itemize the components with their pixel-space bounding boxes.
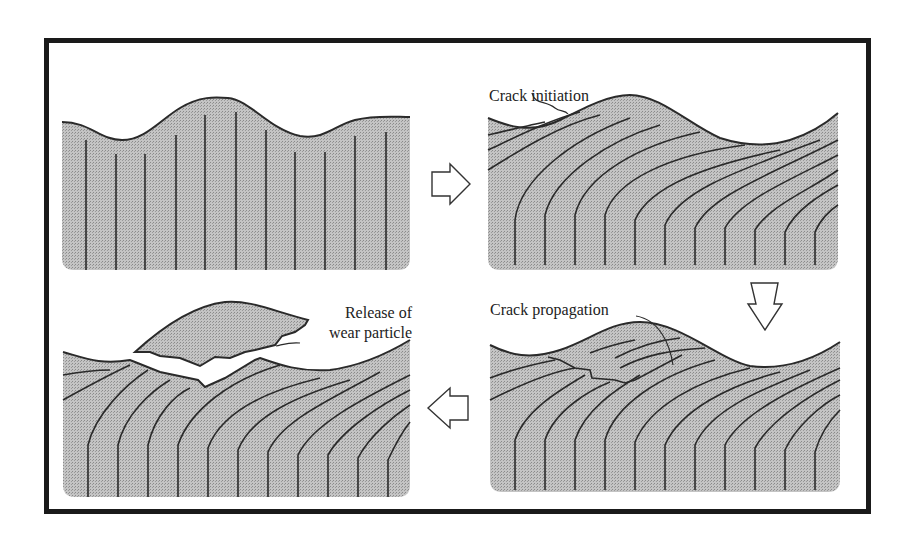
label-crack-initiation: Crack initiation (489, 88, 589, 104)
arrow-down-icon (748, 283, 782, 330)
wear-particle (135, 302, 308, 366)
panel-crack-initiation (488, 93, 838, 270)
panel-crack-propagation (490, 316, 840, 492)
arrow-left-icon (428, 388, 468, 428)
panel-initial-surface (62, 97, 410, 270)
diagram-canvas (0, 0, 911, 548)
label-release-line1: Release of (334, 305, 412, 321)
label-release-line2: wear particle (312, 325, 412, 341)
wear-particle-pointer (276, 343, 300, 346)
label-crack-propagation: Crack propagation (490, 302, 609, 318)
arrow-right-icon (432, 164, 470, 204)
